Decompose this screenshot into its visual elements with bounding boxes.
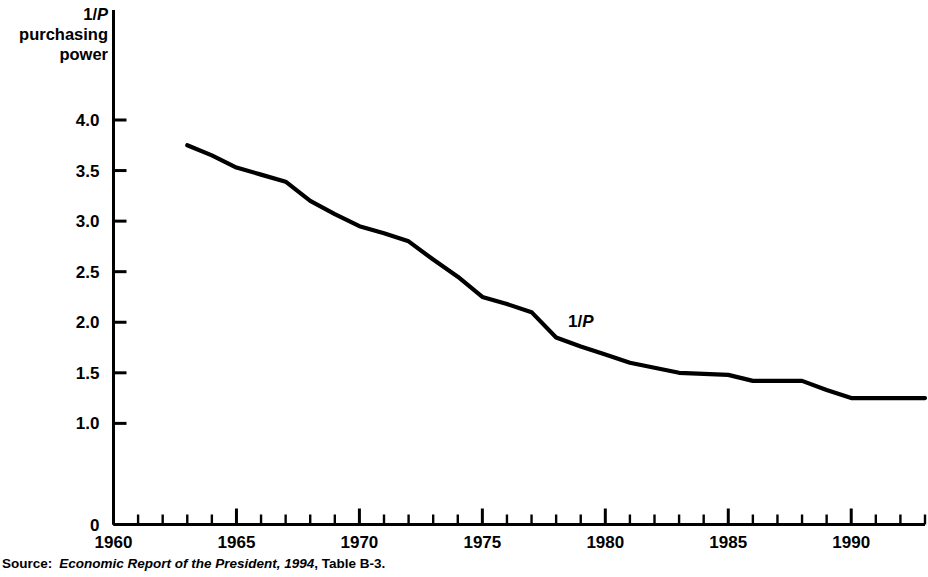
x-tick-label-1960: 1960 — [95, 533, 133, 552]
y-tick-label-2.0: 2.0 — [76, 313, 100, 332]
y-tick-label-1.5: 1.5 — [76, 364, 100, 383]
x-tick-label-1985: 1985 — [709, 533, 747, 552]
source-title: Economic Report of the President, 1994 — [59, 556, 314, 571]
figure-container: 1/P purchasing power 4.03.53.02.52.01.51… — [0, 0, 928, 577]
source-tail: , — [314, 556, 322, 571]
y-tick-label-1.0: 1.0 — [76, 414, 100, 433]
line-chart: 4.03.53.02.52.01.51.00 19601965197019751… — [0, 0, 928, 577]
y-tick-label-4.0: 4.0 — [76, 111, 100, 130]
y-axis-tick-labels: 4.03.53.02.52.01.51.00 — [76, 111, 100, 535]
y-tick-label-3.5: 3.5 — [76, 162, 100, 181]
x-tick-label-1965: 1965 — [218, 533, 256, 552]
source-prefix: Source: — [2, 556, 52, 571]
x-tick-label-1990: 1990 — [832, 533, 870, 552]
chart-axes — [114, 10, 926, 525]
x-tick-label-1975: 1975 — [463, 533, 501, 552]
x-tick-label-1980: 1980 — [586, 533, 624, 552]
x-axis-major-ticks — [114, 509, 852, 525]
y-axis-ticks — [114, 120, 127, 525]
source-table-ref: Table B-3. — [322, 556, 386, 571]
y-tick-label-3.0: 3.0 — [76, 212, 100, 231]
source-note: Source:Economic Report of the President,… — [2, 556, 385, 571]
x-tick-label-1970: 1970 — [340, 533, 378, 552]
y-tick-label-2.5: 2.5 — [76, 263, 100, 282]
x-axis-tick-labels: 1960196519701975198019851990 — [95, 533, 871, 552]
series-annotation-label: 1/P — [568, 312, 594, 331]
series-line-1-over-p — [187, 145, 925, 398]
